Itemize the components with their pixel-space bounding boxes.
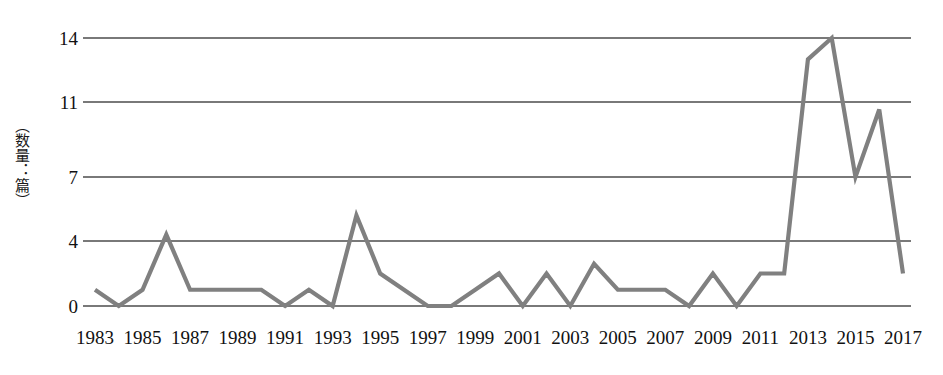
line-chart: （数量：篇） 0471114 1983198519871989199119931… <box>0 0 943 375</box>
y-tick-label-4: 4 <box>38 232 78 251</box>
y-tick-label-14: 14 <box>38 29 78 48</box>
plot-svg <box>83 0 911 375</box>
y-tick-label-7: 7 <box>38 168 78 187</box>
plot-area <box>83 0 911 375</box>
y-axis-tick-labels: 0471114 <box>20 0 78 375</box>
y-tick-label-0: 0 <box>38 297 78 316</box>
y-tick-label-11: 11 <box>38 93 78 112</box>
data-series-line <box>95 38 903 306</box>
